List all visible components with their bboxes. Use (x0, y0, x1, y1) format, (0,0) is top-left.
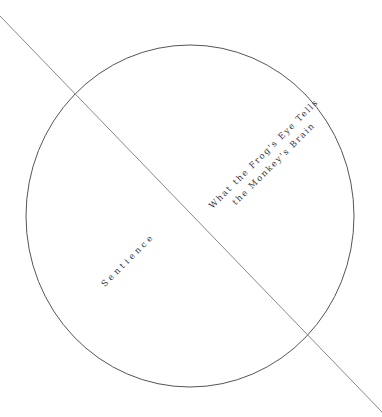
region-label-frog-line1: What the Frog's Eye Tells (207, 97, 321, 211)
region-label-sentience: Sentience (99, 231, 157, 289)
region-label-frog-line2: the Monkey's Brain (230, 120, 317, 207)
divider-line (0, 16, 382, 412)
diagram-canvas: What the Frog's Eye Tells the Monkey's B… (0, 0, 382, 417)
venn-circle (26, 45, 354, 387)
